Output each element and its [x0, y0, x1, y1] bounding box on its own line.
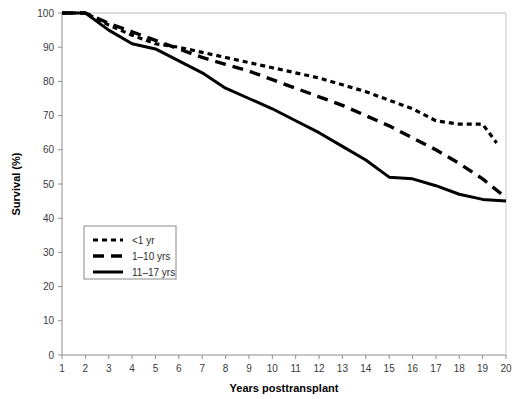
y-tick-label: 40 — [43, 213, 55, 224]
y-axis-title: Survival (%) — [10, 152, 22, 215]
y-tick-label: 10 — [43, 315, 55, 326]
x-tick-label: 5 — [153, 363, 159, 374]
x-axis-ticks — [62, 355, 506, 359]
y-tick-label: 70 — [43, 110, 55, 121]
x-tick-label: 9 — [246, 363, 252, 374]
series-line-2 — [62, 13, 506, 201]
y-axis-tick-labels: 0102030405060708090100 — [37, 8, 54, 361]
x-tick-label: 7 — [199, 363, 205, 374]
x-tick-label: 14 — [360, 363, 372, 374]
y-tick-label: 60 — [43, 144, 55, 155]
y-tick-label: 30 — [43, 247, 55, 258]
x-tick-label: 8 — [223, 363, 229, 374]
x-tick-label: 2 — [83, 363, 89, 374]
y-tick-label: 50 — [43, 179, 55, 190]
data-series-group — [62, 13, 506, 201]
legend-label-2: 11–17 yrs — [132, 267, 175, 278]
x-tick-label: 4 — [129, 363, 135, 374]
y-tick-label: 80 — [43, 76, 55, 87]
y-tick-label: 20 — [43, 281, 55, 292]
chart-canvas: 0102030405060708090100 12345678910111213… — [0, 0, 521, 399]
survival-chart-figure: 0102030405060708090100 12345678910111213… — [0, 0, 521, 399]
series-line-0 — [62, 13, 497, 143]
axis-lines — [62, 13, 506, 355]
x-tick-label: 1 — [59, 363, 65, 374]
x-tick-label: 15 — [384, 363, 396, 374]
legend-label-1: 1–10 yrs — [132, 251, 170, 262]
x-tick-label: 18 — [454, 363, 466, 374]
x-tick-label: 12 — [313, 363, 325, 374]
x-tick-label: 3 — [106, 363, 112, 374]
x-tick-label: 10 — [267, 363, 279, 374]
x-tick-label: 16 — [407, 363, 419, 374]
x-tick-label: 11 — [290, 363, 301, 374]
y-tick-label: 100 — [37, 8, 54, 19]
x-tick-label: 6 — [176, 363, 182, 374]
x-tick-label: 19 — [477, 363, 489, 374]
x-tick-label: 17 — [430, 363, 442, 374]
x-tick-label: 13 — [337, 363, 349, 374]
y-tick-label: 0 — [48, 350, 54, 361]
legend-label-0: <1 yr — [132, 235, 155, 246]
y-axis-ticks — [58, 13, 62, 355]
x-tick-label: 20 — [500, 363, 512, 374]
x-axis-title: Years posttransplant — [230, 382, 339, 394]
x-axis-tick-labels: 1234567891011121314151617181920 — [59, 363, 512, 374]
y-tick-label: 90 — [43, 42, 55, 53]
chart-legend: <1 yr1–10 yrs11–17 yrs — [84, 226, 176, 279]
